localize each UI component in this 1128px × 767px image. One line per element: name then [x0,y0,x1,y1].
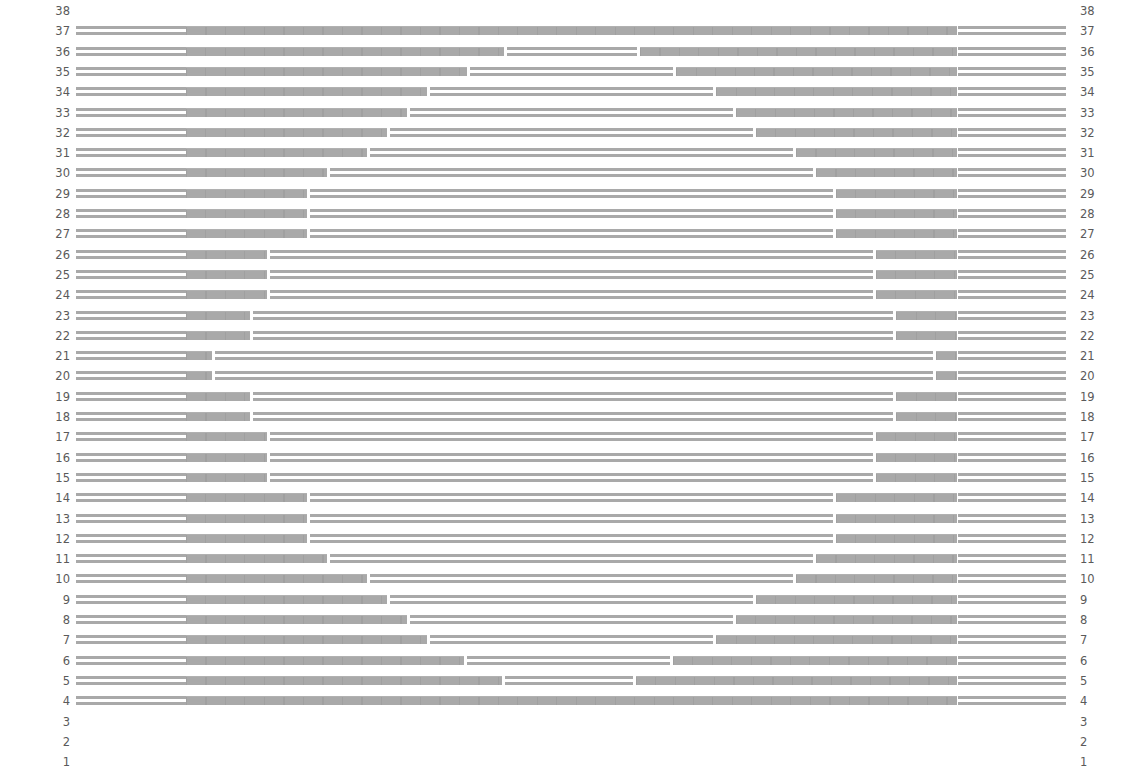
row-label-right: 38 [1080,4,1095,18]
stitch-units-left [186,371,212,381]
left-border-band [76,67,186,77]
stitch-units-right [640,47,957,57]
stitch-units-left [186,412,250,422]
stitch-units-left [186,493,307,503]
right-border-band [958,67,1066,77]
stitch-units-left [186,250,267,260]
right-border-band [958,26,1066,36]
stitch-units-right [716,87,957,97]
row-label-left: 7 [63,633,70,647]
knitting-chart: 3838373736363535343433333232313130302929… [0,0,1128,767]
middle-block [270,250,873,260]
row-label-left: 34 [55,85,70,99]
row-label-right: 13 [1080,512,1095,526]
chart-row-15: 1515 [0,468,1128,488]
right-border-band [958,615,1066,625]
chart-row-33: 3333 [0,103,1128,123]
row-label-right: 12 [1080,532,1095,546]
row-label-left: 29 [55,187,70,201]
middle-block [370,574,793,584]
right-border-band [958,493,1066,503]
stitch-units-right [816,554,957,564]
chart-row-20: 2020 [0,366,1128,386]
row-label-left: 3 [63,715,70,729]
row-label-left: 12 [55,532,70,546]
stitch-units-left [186,554,327,564]
stitch-units-left [186,87,427,97]
chart-row-28: 2828 [0,204,1128,224]
stitch-units [186,696,957,706]
row-label-left: 36 [55,45,70,59]
right-border-band [958,311,1066,321]
row-label-left: 37 [55,24,70,38]
row-label-right: 11 [1080,552,1095,566]
stitch-units-left [186,67,467,77]
chart-row-6: 66 [0,651,1128,671]
left-border-band [76,473,186,483]
stitch-units-right [836,209,957,219]
stitch-units-right [756,128,957,138]
left-border-band [76,189,186,199]
stitch-units-left [186,209,307,219]
middle-block [430,635,713,645]
stitch-units-right [673,656,957,666]
right-border-band [958,635,1066,645]
left-border-band [76,676,186,686]
row-label-left: 4 [63,694,70,708]
row-label-left: 15 [55,471,70,485]
right-border-band [958,696,1066,706]
chart-row-35: 3535 [0,62,1128,82]
stitch-units-right [876,453,957,463]
left-border-band [76,168,186,178]
row-label-left: 28 [55,207,70,221]
left-border-band [76,514,186,524]
row-label-right: 23 [1080,309,1095,323]
left-border-band [76,26,186,36]
chart-row-17: 1717 [0,427,1128,447]
chart-row-37: 3737 [0,21,1128,41]
row-label-right: 8 [1080,613,1087,627]
stitch-units-right [796,148,957,158]
row-label-right: 1 [1080,755,1087,767]
row-label-right: 37 [1080,24,1095,38]
right-border-band [958,270,1066,280]
row-label-left: 35 [55,65,70,79]
middle-block [215,351,933,361]
row-label-right: 33 [1080,106,1095,120]
chart-row-19: 1919 [0,387,1128,407]
right-border-band [958,371,1066,381]
right-border-band [958,229,1066,239]
stitch-units-left [186,290,267,300]
chart-row-18: 1818 [0,407,1128,427]
row-label-left: 2 [63,735,70,749]
right-border-band [958,168,1066,178]
row-label-left: 27 [55,227,70,241]
row-label-left: 8 [63,613,70,627]
stitch-units-left [186,432,267,442]
middle-block [270,270,873,280]
row-label-right: 7 [1080,633,1087,647]
middle-block [310,534,833,544]
chart-row-23: 2323 [0,306,1128,326]
row-label-right: 35 [1080,65,1095,79]
middle-block [507,47,637,57]
left-border-band [76,128,186,138]
stitch-units-right [736,615,957,625]
left-border-band [76,554,186,564]
row-label-right: 24 [1080,288,1095,302]
left-border-band [76,371,186,381]
chart-row-24: 2424 [0,285,1128,305]
row-label-right: 20 [1080,369,1095,383]
stitch-units-left [186,615,407,625]
left-border-band [76,270,186,280]
stitch-units-right [876,270,957,280]
right-border-band [958,331,1066,341]
chart-row-32: 3232 [0,123,1128,143]
middle-block [430,87,713,97]
left-border-band [76,148,186,158]
left-border-band [76,250,186,260]
row-label-right: 30 [1080,166,1095,180]
stitch-units-left [186,148,367,158]
stitch-units-left [186,534,307,544]
chart-row-10: 1010 [0,569,1128,589]
